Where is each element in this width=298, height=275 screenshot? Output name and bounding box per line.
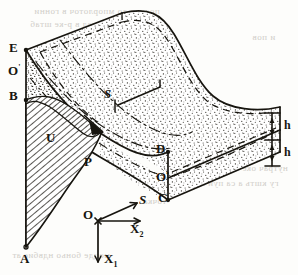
label-thickness-h-bottom: h: [284, 146, 291, 158]
label-corner-c: C: [158, 191, 167, 204]
label-thickness-h-top: h: [284, 119, 291, 131]
label-corner-e: E: [9, 41, 18, 54]
label-axis-x2: X2: [130, 222, 143, 239]
label-corner-b: B: [9, 89, 18, 102]
label-axes-origin: O: [83, 208, 93, 221]
label-corner-o-prime-mark: ': [18, 63, 20, 72]
shell-element-figure: подиев до мпорлоточ в гонни Эпер. предел…: [0, 0, 298, 275]
label-corner-o-star-mark: •: [166, 169, 169, 178]
label-axis-x2-base: X: [130, 221, 139, 236]
label-corner-d: D: [156, 142, 165, 155]
label-corner-a: A: [20, 252, 29, 265]
label-corner-o-star: O•: [156, 170, 169, 183]
label-axis-s: S: [139, 193, 146, 206]
label-axis-x1-base: X: [104, 251, 113, 266]
label-corner-o-prime-letter: O: [8, 63, 18, 78]
label-corner-o-prime: O': [8, 64, 20, 77]
label-axis-x1: X1: [104, 252, 117, 269]
label-axis-x1-sub: 1: [113, 260, 117, 269]
shell-drawing: [0, 0, 298, 275]
label-surface-s: S: [104, 87, 111, 100]
label-corner-o-star-letter: O: [156, 169, 166, 184]
label-region-u: U: [46, 131, 55, 144]
label-axis-x2-sub: 2: [139, 230, 143, 239]
label-point-p: P: [84, 155, 92, 168]
